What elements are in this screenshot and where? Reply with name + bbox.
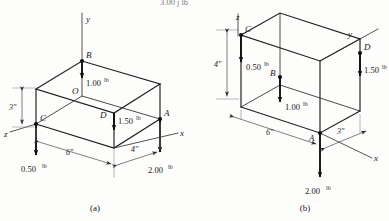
- panel-a-box-bottom-back-edges: [36, 96, 160, 124]
- panel-a-force-A-value: 2.00: [148, 165, 163, 175]
- panel-b-point-C-label: C: [245, 24, 252, 34]
- panel-a-point-A-label: A: [163, 108, 170, 118]
- panel-b-force-A-unit: lb: [326, 185, 331, 191]
- panel-a-point-B-label: B: [86, 50, 92, 60]
- panel-a-axis-z-line: [10, 124, 36, 132]
- panel-b-axis-z-label: z: [235, 12, 240, 22]
- panel-a-axis-z-label: z: [3, 129, 8, 139]
- statics-force-diagram: 3.00 j lb y O x z B: [0, 0, 389, 221]
- panel-b-force-B-unit: lb: [303, 101, 308, 107]
- panel-a-axis-y-label: y: [85, 14, 90, 24]
- panel-a-dim-width-line: [39, 142, 111, 164]
- panel-b-caption: (b): [300, 203, 311, 213]
- panel-a-force-A-unit: lb: [168, 164, 173, 170]
- panel-a-point-C-label: C: [40, 113, 47, 123]
- panel-b-box-top-face: [241, 13, 360, 61]
- figure-root: 3.00 j lb y O x z B: [0, 0, 389, 221]
- panel-a-caption: (a): [90, 203, 100, 213]
- panel-b-force-D-value: 1.50: [364, 65, 379, 75]
- panel-a-dim-height-label: 3": [8, 103, 17, 112]
- panel-a-force-B-unit: lb: [104, 77, 109, 83]
- panel-b: z y x C 0.50 lb B: [214, 12, 387, 213]
- panel-b-force-D-unit: lb: [382, 64, 387, 70]
- panel-a-dim-width-label: 6": [66, 148, 74, 157]
- panel-b-dim-depth-label: 3": [336, 127, 345, 136]
- panel-b-box-bottom-back-edges: [241, 85, 360, 111]
- panel-b-force-B-value: 1.00: [285, 102, 300, 112]
- panel-a-force-B-value: 1.00: [86, 78, 101, 88]
- panel-a-force-D-unit: lb: [136, 115, 141, 121]
- panel-b-dim-width-line: [234, 117, 316, 144]
- panel-b-point-D-label: D: [363, 42, 371, 52]
- panel-b-dim-height-label: 4": [214, 60, 222, 69]
- panel-a-box-bottom-front-edges: [36, 119, 160, 148]
- panel-a-dim-depth-label: 4": [131, 145, 139, 154]
- top-text-fragment: 3.00 j lb: [160, 0, 188, 7]
- panel-b-force-A-value: 2.00: [305, 186, 320, 196]
- panel-b-force-C-unit: lb: [264, 61, 269, 67]
- panel-a-point-O-label: O: [72, 86, 79, 96]
- panel-a-force-C-unit: lb: [42, 163, 47, 169]
- panel-a-point-D-label: D: [99, 110, 107, 120]
- panel-b-axis-x-label: x: [373, 153, 378, 163]
- panel-b-axis-y-label: y: [347, 29, 352, 39]
- panel-a-axis-x-label: x: [179, 128, 184, 138]
- panel-b-axis-x-line: [320, 133, 372, 158]
- panel-a: y O x z B 1.00 lb D: [3, 13, 184, 213]
- panel-b-dim-width-label: 6": [266, 128, 274, 137]
- panel-a-force-D-value: 1.50: [118, 116, 133, 126]
- panel-b-force-C-value: 0.50: [246, 62, 261, 72]
- panel-a-force-C-value: 0.50: [21, 164, 36, 174]
- panel-a-axis-x-line: [114, 133, 178, 148]
- panel-b-point-B-label: B: [270, 68, 276, 78]
